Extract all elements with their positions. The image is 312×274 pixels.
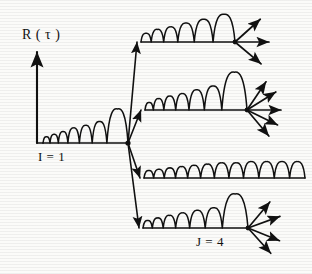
y-axis-label: R ( τ ) xyxy=(22,27,60,43)
terminal-arrow-2-5 xyxy=(247,110,269,136)
branch-connector-4 xyxy=(128,143,139,228)
terminal-arrow-1-3 xyxy=(235,42,261,64)
terminal-arrow-2-2 xyxy=(247,92,276,110)
branch-wavepacket-4 xyxy=(143,194,248,228)
branch-wavepacket-2 xyxy=(145,72,247,110)
branch-wavepacket-1 xyxy=(141,14,235,42)
trunk-label: I = 1 xyxy=(38,149,65,165)
branch-label: J = 4 xyxy=(196,234,224,250)
branch-connector-1 xyxy=(128,42,137,143)
terminal-arrow-2-4 xyxy=(247,110,278,125)
trunk-wavepacket xyxy=(43,109,128,143)
branch-wavepacket-3 xyxy=(144,162,305,178)
terminal-arrow-1-1 xyxy=(235,19,260,42)
terminal-arrow-2-1 xyxy=(247,82,266,110)
